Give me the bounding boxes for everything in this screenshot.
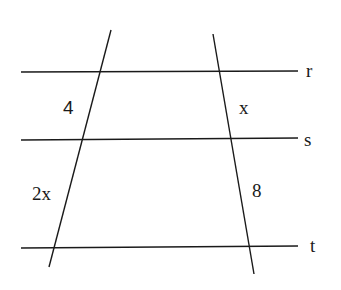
line-t [21,246,298,248]
left-transversal [49,30,111,267]
segment-label-left-upper: 4 [63,97,74,118]
segment-label-right-upper: x [239,97,249,118]
parallel-lines-diagram: r s t 4 x 2x 8 [0,0,341,290]
segment-label-left-lower: 2x [32,183,52,204]
right-transversal [213,34,254,274]
label-r: r [306,60,313,81]
segment-label-right-lower: 8 [252,180,262,201]
label-s: s [304,129,311,150]
line-s [21,138,298,140]
label-t: t [310,235,316,256]
line-r [21,71,298,72]
